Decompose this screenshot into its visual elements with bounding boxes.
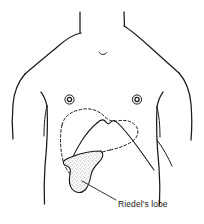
chest-contour-group — [157, 140, 172, 166]
shoulder-group — [25, 26, 179, 74]
arm-inner-right — [157, 107, 160, 137]
riedels-lobe-leader-line — [82, 181, 116, 200]
arm-outline-right-outer — [179, 73, 192, 140]
anatomical-figure: Riedel's lobe — [0, 0, 204, 224]
pectoral-fold-right — [157, 140, 172, 166]
trapezius-right — [124, 26, 179, 73]
riedels-lobe-region — [63, 151, 102, 193]
nipple-marker-right — [132, 95, 141, 104]
trapezius-left — [25, 33, 81, 74]
neck-line-right — [124, 12, 125, 26]
torso-diagram-svg: Riedel's lobe — [0, 0, 204, 224]
arm-inner-left — [44, 106, 47, 136]
liver-dashed-upper — [62, 109, 138, 150]
arm-outer-group — [12, 73, 192, 140]
neck-group — [80, 12, 125, 33]
suprasternal-notch-mark — [99, 52, 107, 55]
nipple-marker-left — [65, 95, 74, 104]
axilla-right — [157, 92, 163, 107]
arm-outline-left-outer — [12, 74, 25, 139]
riedels-lobe-label: Riedel's lobe — [118, 199, 168, 209]
axilla-left — [41, 92, 47, 106]
